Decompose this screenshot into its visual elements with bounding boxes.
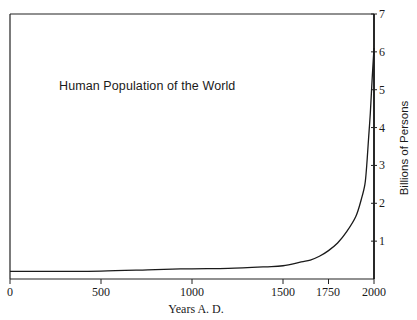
y-tick-label: 6: [379, 45, 385, 60]
x-tick-label: 1000: [180, 285, 204, 300]
plot-frame: [10, 14, 374, 279]
y-tick-label: 3: [379, 158, 385, 173]
x-axis-ticks: [10, 279, 374, 284]
y-tick-label: 5: [379, 83, 385, 98]
x-tick-label: 1750: [316, 285, 340, 300]
chart-title: Human Population of the World: [59, 79, 235, 93]
y-tick-label: 1: [379, 234, 385, 249]
chart-canvas: [0, 0, 417, 320]
y-tick-label: 2: [379, 196, 385, 211]
x-tick-label: 500: [92, 285, 110, 300]
y-axis-label: Billions of Persons: [398, 101, 410, 196]
x-tick-label: 2000: [362, 285, 386, 300]
x-tick-label: 0: [7, 285, 13, 300]
x-tick-label: 1500: [271, 285, 295, 300]
x-axis-label: Years A. D.: [0, 302, 380, 317]
y-tick-label: 4: [379, 121, 385, 136]
y-tick-label: 7: [379, 7, 385, 22]
